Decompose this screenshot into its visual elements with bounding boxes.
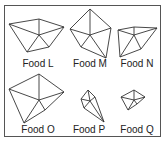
radar-shapes xyxy=(0,0,164,141)
food-l-spoke xyxy=(39,27,64,35)
food-l-outline xyxy=(9,19,64,52)
food-n-spoke xyxy=(134,35,141,49)
food-q-spoke xyxy=(121,97,134,100)
food-n-spoke xyxy=(120,35,134,57)
food-n-shape xyxy=(118,27,157,57)
food-n-spoke xyxy=(134,28,157,35)
food-p-spoke xyxy=(90,101,104,122)
food-o-spoke xyxy=(24,100,39,123)
food-o-outline xyxy=(9,74,64,123)
food-q-shape xyxy=(121,90,145,110)
food-n-label: Food N xyxy=(121,58,154,69)
food-m-spoke xyxy=(81,35,90,47)
food-m-label: Food M xyxy=(73,58,107,69)
food-p-spoke xyxy=(81,99,90,101)
food-l-label: Food L xyxy=(22,58,53,69)
food-l-shape xyxy=(9,19,64,52)
food-p-spoke xyxy=(90,97,95,101)
food-m-shape xyxy=(70,9,111,58)
food-m-outline xyxy=(70,9,111,58)
food-l-spoke xyxy=(39,35,49,47)
food-p-spoke xyxy=(84,101,90,108)
food-m-spoke xyxy=(90,28,111,35)
food-p-shape xyxy=(81,90,104,122)
food-o-label: Food O xyxy=(21,124,54,135)
food-o-spoke xyxy=(39,100,45,110)
food-o-shape xyxy=(9,74,64,123)
food-l-spoke xyxy=(9,24,39,35)
food-q-label: Food Q xyxy=(120,124,153,135)
food-q-spoke xyxy=(134,100,137,104)
food-n-spoke xyxy=(118,30,134,35)
food-p-label: Food P xyxy=(73,124,105,135)
